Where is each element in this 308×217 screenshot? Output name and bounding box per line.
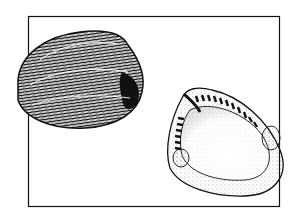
shell-illustration: [0, 0, 308, 217]
interior-shell: [168, 88, 283, 196]
exterior-shell: [18, 31, 143, 128]
